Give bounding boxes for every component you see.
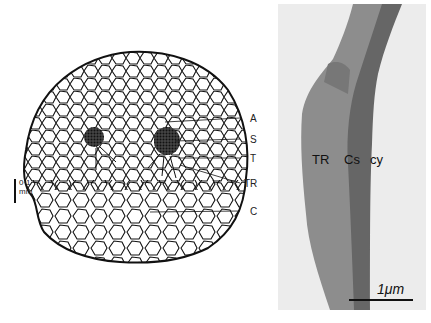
scale-unit: mm <box>19 187 32 196</box>
section-diagram: A S T TR C 0·1 mm <box>0 0 270 323</box>
micrograph: TR Cs cy <box>278 4 426 310</box>
label-cy: cy <box>370 152 383 167</box>
label-cs: Cs <box>344 152 360 167</box>
label-tr: TR <box>244 178 257 189</box>
scale-bar-left-label: 0·1 mm <box>19 178 32 196</box>
figure: A S T TR C 0·1 mm TR Cs cy 1μm <box>0 0 431 323</box>
label-t: T <box>250 153 256 164</box>
cell-section-drawing <box>0 0 270 323</box>
label-s: S <box>250 134 257 145</box>
label-tr-micro: TR <box>312 152 329 167</box>
label-c: C <box>250 206 257 217</box>
scale-bar-right-label: 1μm <box>377 281 404 297</box>
scale-bar-left <box>14 179 16 203</box>
label-a: A <box>250 113 257 124</box>
scale-value: 0·1 <box>19 178 32 187</box>
scale-bar-right <box>349 299 413 301</box>
